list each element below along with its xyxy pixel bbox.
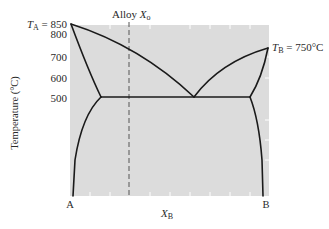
ta-annotation: TA = 850 xyxy=(27,18,68,32)
plot-area xyxy=(70,25,269,196)
y-tick-labels: 800 700 600 500 xyxy=(51,28,68,104)
svg-text:600: 600 xyxy=(51,72,68,84)
x-endpoint-a: A xyxy=(66,199,74,210)
tb-annotation: TB = 750°C xyxy=(272,41,323,55)
svg-text:500: 500 xyxy=(51,92,68,104)
phase-diagram: 800 700 600 500 TA = 850 TB = 750°C Allo… xyxy=(0,0,329,229)
alloy-annotation: Alloy Xo xyxy=(112,8,151,22)
y-axis-label: Temperature (°C) xyxy=(9,76,21,150)
svg-text:700: 700 xyxy=(51,51,68,63)
x-axis-label: XB xyxy=(160,207,173,221)
x-endpoint-b: B xyxy=(262,199,269,210)
